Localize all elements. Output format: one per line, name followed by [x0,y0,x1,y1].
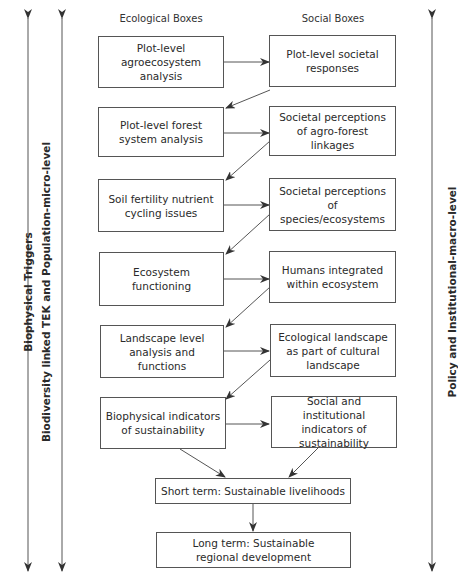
ecological-boxes-header: Ecological Boxes [91,13,231,24]
social-box-societal-responses: Plot-level societal responses [269,35,396,87]
diag-arrow-1 [226,90,270,108]
social-box-agro-forest-perceptions: Societal perceptions of agro-forest link… [269,106,396,156]
eco-box-forest-system: Plot-level forest system analysis [98,107,224,157]
social-to-short-term-arrow [289,448,318,477]
eco-box-agroecosystem: Plot-level agroecosystem analysis [98,36,224,88]
micro-level-label: Biodiversity linked TEK and Population-m… [40,142,52,442]
social-boxes-header: Social Boxes [263,13,403,24]
diag-arrow-4 [226,287,270,327]
diagonal-arrows [226,90,270,399]
eco-box-ecosystem-functioning: Ecosystem functioning [99,252,224,306]
social-box-ecological-landscape: Ecological landscape as part of cultural… [270,324,396,377]
horizontal-arrows [224,62,269,424]
eco-box-biophysical-indicators: Biophysical indicators of sustainability [100,397,226,449]
diag-arrow-2 [226,141,270,180]
eco-box-soil-fertility: Soil fertility nutrient cycling issues [98,179,224,232]
social-box-humans-integrated: Humans integrated within ecosystem [269,251,396,303]
short-term-outcome-box: Short term: Sustainable livelihoods [155,478,351,504]
eco-to-short-term-arrow [180,449,225,477]
eco-box-landscape-level: Landscape level analysis and functions [100,325,224,378]
macro-level-label: Policy and Institutional-macro-level [446,142,458,442]
long-term-outcome-box: Long term: Sustainable regional developm… [156,532,351,568]
social-box-institutional-indicators: Social and institutional indicators of s… [271,396,397,448]
diag-arrow-5 [226,360,270,399]
diag-arrow-3 [226,214,270,254]
biophysical-triggers-label: Biophysical Triggers [22,192,34,392]
social-box-species-perceptions: Societal perceptions of species/ecosyste… [269,178,396,231]
